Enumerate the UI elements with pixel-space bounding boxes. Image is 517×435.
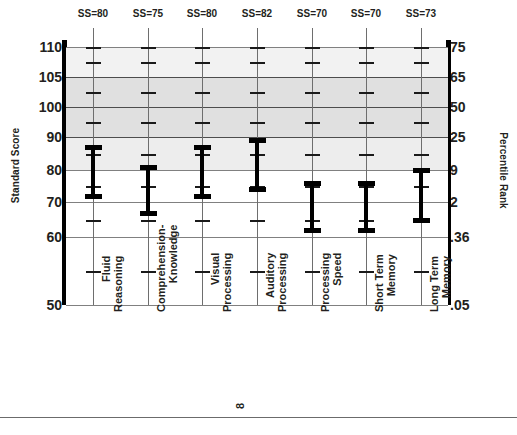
category-label-line: Short Term xyxy=(373,254,385,312)
axis-tick-mark xyxy=(250,220,265,222)
axis-tick-mark xyxy=(359,62,374,64)
axis-tick-mark xyxy=(250,271,265,273)
category-label-line: Processing xyxy=(319,253,331,312)
y-axis-right-ticks: 7565502592.36.05 xyxy=(450,0,498,435)
confidence-interval-cap-lower xyxy=(85,194,102,199)
axis-tick-mark xyxy=(195,92,210,94)
axis-tick-mark xyxy=(195,122,210,124)
axis-tick-mark xyxy=(195,271,210,273)
category-label: ProcessingSpeed xyxy=(319,312,378,337)
axis-tick-mark xyxy=(414,271,429,273)
axis-tick-mark xyxy=(414,62,429,64)
axis-tick-mark xyxy=(414,122,429,124)
confidence-interval-bar xyxy=(200,147,204,196)
confidence-interval-cap-upper xyxy=(140,165,157,170)
page-number: 8 xyxy=(234,403,246,409)
axis-tick-mark xyxy=(86,271,101,273)
confidence-interval-cap-upper xyxy=(85,145,102,150)
axis-tick-mark xyxy=(359,47,374,49)
y-axis-right-tick-label: 50 xyxy=(450,100,494,114)
category-label-line: Auditory xyxy=(264,253,276,312)
category-label-line: Memory xyxy=(440,256,452,312)
y-axis-right-tick-label: 75 xyxy=(450,40,494,54)
category-reference-line xyxy=(312,28,313,305)
confidence-interval-cap-upper xyxy=(358,181,375,186)
y-axis-right-title: Percentile Rank xyxy=(498,123,509,219)
axis-tick-mark xyxy=(86,62,101,64)
category-label: VisualProcessing xyxy=(209,312,268,337)
footer-divider xyxy=(0,417,517,418)
axis-tick-mark xyxy=(305,62,320,64)
category-label-line: Knowledge xyxy=(167,225,179,312)
confidence-interval-cap-upper xyxy=(194,145,211,150)
y-axis-right-tick-label: .05 xyxy=(450,298,494,312)
axis-tick-mark xyxy=(414,154,429,156)
axis-tick-mark xyxy=(414,92,429,94)
confidence-interval-bar xyxy=(91,147,95,196)
chart-container: Standard Score Percentile Rank 110105100… xyxy=(0,0,517,435)
category-label-line: Long Term xyxy=(428,256,440,312)
axis-tick-mark xyxy=(250,47,265,49)
confidence-interval-bar xyxy=(364,183,368,230)
axis-tick-mark xyxy=(305,154,320,156)
axis-tick-mark xyxy=(305,47,320,49)
y-axis-left-tick-label: 90 xyxy=(18,130,62,144)
y-axis-left-tick-label: 70 xyxy=(18,195,62,209)
axis-tick-mark xyxy=(305,122,320,124)
confidence-interval-bar xyxy=(310,183,314,230)
standard-score-label: SS=73 xyxy=(386,8,456,19)
confidence-interval-cap-lower xyxy=(358,228,375,233)
category-label-line: Memory xyxy=(385,254,397,312)
confidence-interval-bar xyxy=(146,167,150,213)
axis-tick-mark xyxy=(414,47,429,49)
y-axis-left-tick-label: 50 xyxy=(18,298,62,312)
category-label: Long TermMemory xyxy=(428,312,484,337)
axis-tick-mark xyxy=(86,92,101,94)
y-axis-right-tick-label: 65 xyxy=(450,70,494,84)
confidence-interval-cap-upper xyxy=(413,168,430,173)
axis-tick-mark xyxy=(86,47,101,49)
confidence-interval-bar xyxy=(419,170,423,220)
category-reference-line xyxy=(366,28,367,305)
y-axis-right-tick-label: 2 xyxy=(450,195,494,209)
axis-tick-mark xyxy=(359,122,374,124)
axis-tick-mark xyxy=(86,122,101,124)
axis-tick-mark xyxy=(195,47,210,49)
axis-tick-mark xyxy=(250,62,265,64)
axis-tick-mark xyxy=(305,271,320,273)
axis-tick-mark xyxy=(359,92,374,94)
confidence-interval-bar xyxy=(255,140,259,189)
confidence-interval-cap-upper xyxy=(304,181,321,186)
y-axis-left-tick-label: 80 xyxy=(18,163,62,177)
axis-tick-mark xyxy=(195,220,210,222)
axis-tick-mark xyxy=(141,122,156,124)
confidence-interval-cap-lower xyxy=(194,194,211,199)
y-axis-right-tick-label: 9 xyxy=(450,163,494,177)
axis-tick-mark xyxy=(195,62,210,64)
axis-tick-mark xyxy=(141,92,156,94)
category-label-line: Fluid xyxy=(100,256,112,312)
axis-tick-mark xyxy=(141,220,156,222)
axis-tick-mark xyxy=(359,271,374,273)
confidence-interval-cap-lower xyxy=(304,228,321,233)
y-axis-left-ticks: 1101051009080706050 xyxy=(14,0,62,435)
axis-tick-mark xyxy=(141,271,156,273)
y-axis-left-tick-label: 100 xyxy=(18,100,62,114)
confidence-interval-cap-upper xyxy=(249,138,266,143)
y-axis-right-tick-label: .36 xyxy=(450,230,494,244)
axis-tick-mark xyxy=(250,92,265,94)
axis-tick-mark xyxy=(141,154,156,156)
y-axis-left-tick-label: 105 xyxy=(18,70,62,84)
category-label: Short TermMemory xyxy=(373,312,431,337)
y-axis-left-tick-label: 60 xyxy=(18,230,62,244)
category-reference-line xyxy=(421,28,422,305)
y-axis-left-tick-label: 110 xyxy=(18,40,62,54)
confidence-interval-cap-lower xyxy=(249,187,266,192)
axis-tick-mark xyxy=(141,62,156,64)
axis-tick-mark xyxy=(86,220,101,222)
confidence-interval-cap-lower xyxy=(413,218,430,223)
category-label-line: Comprehension- xyxy=(155,225,167,312)
category-label-line: Speed xyxy=(331,253,343,312)
category-label: AuditoryProcessing xyxy=(264,312,323,337)
category-label-line: Processing xyxy=(221,253,233,312)
